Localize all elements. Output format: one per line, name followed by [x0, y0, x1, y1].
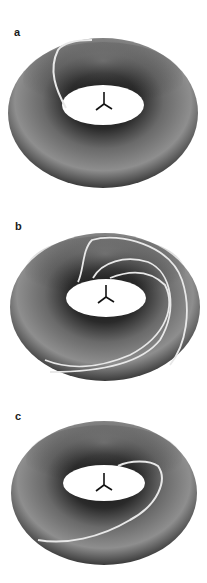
torus-panel-b — [0, 231, 207, 383]
torus-panel-c — [0, 419, 207, 569]
torus-panel-a — [0, 36, 207, 192]
